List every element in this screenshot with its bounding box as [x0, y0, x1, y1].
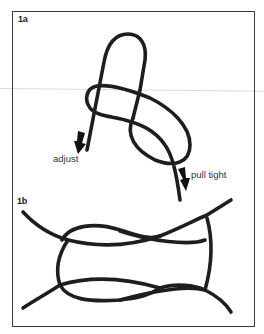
knot-illustration — [0, 0, 264, 334]
arrow-down-icon — [74, 131, 86, 154]
knot-1a-rope — [87, 34, 190, 200]
knot-1b-rope — [23, 200, 231, 312]
